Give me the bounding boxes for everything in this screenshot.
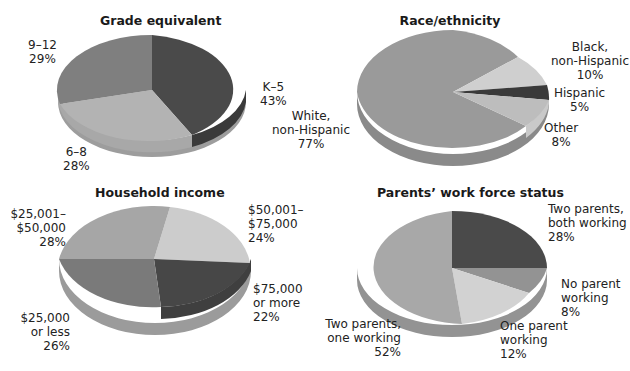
slice-25-50k: [59, 206, 170, 259]
slice-one-working: [374, 211, 462, 324]
label-one-parent: One parent working 12%: [500, 319, 568, 361]
chart-parents-work-force: Parents’ work force status Two parents, …: [315, 185, 630, 371]
label-both-working: Two parents, both working 28%: [548, 202, 627, 244]
label-black: Black, non-Hispanic 10%: [551, 40, 629, 82]
label-9-12: 9–12 29%: [28, 38, 57, 66]
label-75k-plus: $75,000 or more 22%: [253, 282, 303, 324]
label-no-parent: No parent working 8%: [561, 277, 620, 319]
label-50-75k: $50,001– $75,000 24%: [248, 203, 304, 245]
label-one-working: Two parents, one working 52%: [321, 317, 401, 359]
slice-50-75k: [154, 207, 250, 263]
label-6-8: 6–8 28%: [63, 145, 90, 173]
label-hispanic: Hispanic 5%: [554, 86, 605, 114]
chart-race-ethnicity: Race/ethnicity Black, non-Hispanic 10% H…: [315, 0, 630, 185]
slice-both-working: [452, 211, 547, 268]
label-white: White, non-Hispanic 77%: [272, 109, 350, 151]
label-25k-less: $25,000 or less 26%: [14, 311, 70, 353]
chart-grade-equivalent: Grade equivalent 9–12 29% K–5 43% 6–8 28…: [0, 0, 315, 185]
label-k5: K–5 43%: [260, 80, 287, 108]
label-25-50k: $25,001– $50,000 28%: [8, 207, 66, 249]
label-other: Other 8%: [544, 121, 578, 149]
chart-household-income: Household income $25,001– $50,000 28% $5…: [0, 185, 315, 371]
